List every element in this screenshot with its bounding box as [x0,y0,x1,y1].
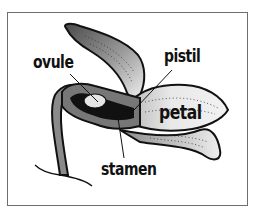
label-pistil: pistil [164,48,200,65]
label-ovule: ovule [33,54,73,71]
label-petal: petal [159,103,202,122]
ovule-shape [84,94,106,108]
flower-illustration [0,0,257,212]
lower-petal [120,129,220,159]
label-stamen: stamen [101,161,156,178]
